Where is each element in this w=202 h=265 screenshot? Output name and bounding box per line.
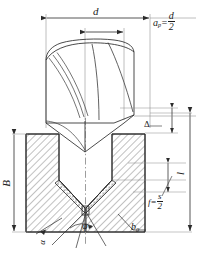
label-groove-width-b0: b0	[131, 222, 139, 233]
label-delta: Δ	[144, 120, 150, 129]
bottom-caption-fragment	[6, 257, 198, 265]
label-depth-of-cut: ap= d 2	[153, 11, 175, 32]
top-caption-fragment	[1, 0, 141, 9]
label-angle-phi: φ	[82, 221, 88, 231]
label-length-l: l	[175, 172, 186, 175]
label-b0-subscript: 0	[136, 226, 139, 233]
label-ap-denominator: 2	[168, 22, 175, 32]
label-f-denominator: 2	[157, 202, 164, 211]
technical-drawing-canvas	[0, 0, 202, 265]
label-angle-alpha: α	[38, 240, 47, 245]
label-feed: f= s 2	[148, 192, 163, 211]
label-width-B: B	[1, 180, 12, 187]
label-ap-equals: =	[161, 17, 168, 28]
label-diameter-d: d	[93, 6, 99, 17]
